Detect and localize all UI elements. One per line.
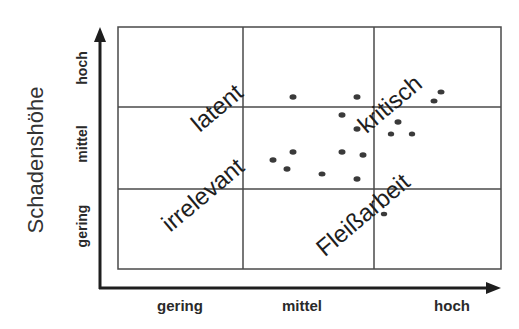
x-tick-high: hoch — [434, 297, 470, 314]
y-tick-low: gering — [74, 205, 90, 248]
chart-canvas — [0, 0, 519, 329]
y-axis-arrow-icon — [94, 27, 106, 42]
y-axis-title: Schadenshöhe — [23, 87, 49, 234]
y-tick-mid: mittel — [74, 125, 90, 162]
x-tick-mid: mittel — [282, 297, 322, 314]
x-tick-low: gering — [157, 297, 203, 314]
y-tick-high: hoch — [74, 51, 90, 84]
data-points — [270, 90, 445, 217]
x-axis-arrow-icon — [486, 282, 501, 294]
risk-matrix-chart: Schadenshöhe hoch mittel gering gering m… — [0, 0, 519, 329]
